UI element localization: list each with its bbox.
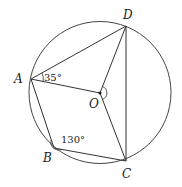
label-b: B bbox=[42, 151, 52, 165]
label-o: O bbox=[89, 97, 99, 111]
label-c: C bbox=[122, 167, 131, 181]
label-d: D bbox=[122, 8, 133, 22]
geometry-diagram: A B C D O 35° 130° bbox=[0, 0, 182, 187]
segment-ab bbox=[31, 79, 54, 148]
segment-ao bbox=[31, 79, 100, 93]
angle-label-a: 35° bbox=[44, 72, 62, 83]
angle-arc-o bbox=[103, 87, 107, 100]
center-point-o bbox=[99, 92, 102, 95]
segment-oc bbox=[100, 93, 126, 161]
label-a: A bbox=[13, 72, 23, 86]
angle-label-b: 130° bbox=[61, 134, 85, 145]
segment-od bbox=[100, 26, 126, 93]
